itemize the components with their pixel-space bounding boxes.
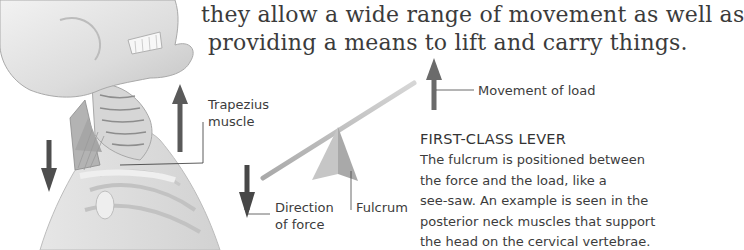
intro-line-2: providing a means to lift and carry thin… — [208, 30, 688, 55]
section-body: The fulcrum is positioned between the fo… — [420, 150, 655, 250]
intro-line-1: they allow a wide range of movement as w… — [201, 2, 744, 27]
section-body-line: posterior neck muscles that support — [420, 212, 655, 233]
trapezius-label: Trapezius muscle — [208, 96, 269, 130]
section-heading: FIRST-CLASS LEVER — [420, 131, 566, 147]
section-body-line: The fulcrum is positioned between — [420, 150, 655, 171]
trapezius-label-line2: muscle — [208, 113, 269, 130]
skull — [0, 0, 193, 97]
trapezius-up-arrow — [172, 84, 188, 152]
direction-label-line2: of force — [275, 216, 334, 233]
section-body-line: see-saw. An example is seen in the — [420, 191, 655, 212]
movement-of-load-label: Movement of load — [478, 82, 595, 99]
section-body-line: the head on the cervical vertebrae. — [420, 232, 655, 250]
section-body-line: the force and the load, like a — [420, 171, 655, 192]
head-down-arrow — [41, 140, 57, 192]
fulcrum-label: Fulcrum — [356, 199, 408, 216]
trapezius-label-line1: Trapezius — [208, 96, 269, 113]
direction-of-force-label: Direction of force — [275, 199, 334, 233]
force-down-arrow — [239, 165, 255, 218]
load-up-arrow — [426, 58, 442, 110]
direction-label-line1: Direction — [275, 199, 334, 216]
